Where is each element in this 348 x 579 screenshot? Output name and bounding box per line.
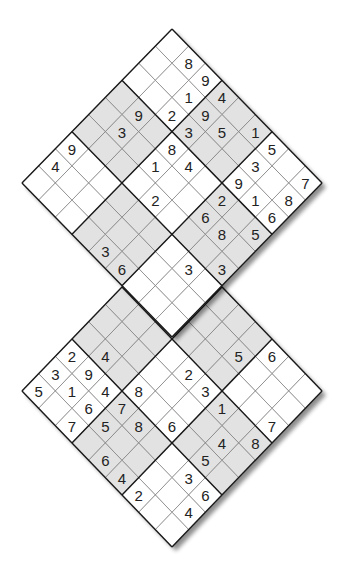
sudoku-grid-top: 89415719538239169842531682393436: [22, 29, 322, 337]
given-digit: 9: [201, 107, 209, 124]
given-digit: 6: [201, 487, 209, 504]
given-digit: 7: [268, 418, 276, 435]
given-digit: 6: [201, 209, 209, 226]
given-digit: 9: [201, 72, 209, 89]
given-digit: 7: [68, 418, 76, 435]
given-digit: 6: [268, 348, 276, 365]
given-digit: 1: [251, 124, 259, 141]
given-digit: 6: [168, 418, 176, 435]
given-digit: 8: [251, 435, 259, 452]
given-digit: 6: [84, 400, 92, 417]
given-digit: 4: [184, 158, 192, 175]
given-digit: 5: [218, 124, 226, 141]
given-digit: 3: [218, 261, 226, 278]
given-digit: 3: [184, 470, 192, 487]
given-digit: 5: [101, 418, 109, 435]
given-digit: 8: [184, 55, 192, 72]
given-digit: 4: [218, 89, 226, 106]
given-digit: 4: [118, 470, 126, 487]
given-digit: 8: [134, 418, 142, 435]
given-digit: 6: [118, 261, 126, 278]
given-digit: 2: [134, 487, 142, 504]
given-digit: 5: [201, 452, 209, 469]
given-digit: 2: [151, 192, 159, 209]
given-digit: 7: [301, 175, 309, 192]
given-digit: 5: [235, 348, 243, 365]
given-digit: 6: [101, 452, 109, 469]
given-digit: 7: [118, 400, 126, 417]
given-digit: 4: [101, 348, 109, 365]
given-digit: 2: [168, 107, 176, 124]
given-digit: 2: [68, 348, 76, 365]
given-digit: 4: [51, 158, 59, 175]
given-digit: 3: [51, 366, 59, 383]
given-digit: 1: [251, 192, 259, 209]
given-digit: 2: [184, 366, 192, 383]
given-digit: 3: [184, 261, 192, 278]
given-digit: 3: [251, 158, 259, 175]
given-digit: 9: [134, 107, 142, 124]
given-digit: 9: [68, 141, 76, 158]
given-digit: 8: [168, 141, 176, 158]
given-digit: 8: [218, 226, 226, 243]
given-digit: 5: [268, 141, 276, 158]
given-digit: 1: [68, 383, 76, 400]
given-digit: 3: [118, 124, 126, 141]
given-digit: 9: [235, 175, 243, 192]
given-digit: 8: [285, 192, 293, 209]
twin-diamond-sudoku-board: 65723184486529478363165457642 8941571953…: [0, 0, 348, 579]
given-digit: 5: [34, 383, 42, 400]
given-digit: 1: [184, 89, 192, 106]
given-digit: 1: [151, 158, 159, 175]
given-digit: 3: [201, 383, 209, 400]
given-digit: 1: [218, 400, 226, 417]
given-digit: 4: [218, 435, 226, 452]
given-digit: 3: [184, 124, 192, 141]
puzzle-canvas: 65723184486529478363165457642 8941571953…: [0, 0, 348, 579]
given-digit: 5: [251, 226, 259, 243]
given-digit: 4: [101, 383, 109, 400]
given-digit: 4: [184, 504, 192, 521]
given-digit: 2: [218, 192, 226, 209]
given-digit: 9: [84, 366, 92, 383]
given-digit: 3: [101, 243, 109, 260]
given-digit: 8: [134, 383, 142, 400]
given-digit: 6: [268, 209, 276, 226]
